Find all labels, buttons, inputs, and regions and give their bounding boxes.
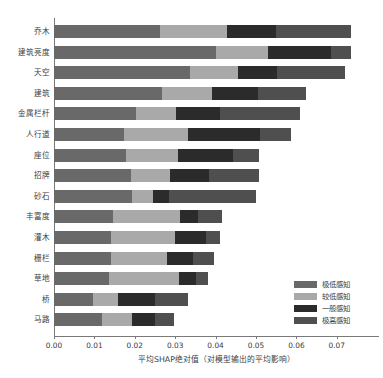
bar-segment xyxy=(196,272,208,285)
bar-segment xyxy=(209,169,260,182)
y-tick-label: 金属栏杆 xyxy=(0,107,50,120)
bar-segment xyxy=(54,107,136,120)
bar-segment xyxy=(54,190,132,203)
bar-segment xyxy=(54,252,111,265)
x-tick-mark xyxy=(296,336,297,339)
bar-segment xyxy=(54,149,126,162)
y-tick-label: 砂石 xyxy=(0,190,50,203)
bar-segment xyxy=(277,66,344,79)
y-tick-label: 桥 xyxy=(0,293,50,306)
x-tick-mark xyxy=(94,336,95,339)
bar-segment xyxy=(188,128,260,141)
bar-segment xyxy=(54,66,190,79)
bar-segment xyxy=(176,107,220,120)
legend-item: 极低感知 xyxy=(294,279,380,291)
bar-segment xyxy=(198,210,223,223)
legend-label: 极低感知 xyxy=(322,279,350,290)
bar-segment xyxy=(178,149,233,162)
bar-segment xyxy=(131,169,170,182)
bar-segment xyxy=(160,25,227,38)
bar-segment xyxy=(220,107,300,120)
x-tick-label: 0.05 xyxy=(248,341,264,350)
bar-segment xyxy=(118,293,155,306)
x-tick-label: 0.02 xyxy=(127,341,143,350)
x-axis-title: 平均SHAP绝对值（对模型输出的平均影响） xyxy=(54,353,379,364)
bar-segment xyxy=(258,87,307,100)
bar-segment xyxy=(102,313,131,326)
bar-segment xyxy=(54,25,160,38)
bar-segment xyxy=(216,46,269,59)
x-tick-label: 0.00 xyxy=(46,341,62,350)
legend: 极低感知较低感知一般感知极高感知 xyxy=(294,279,380,327)
x-tick-label: 0.07 xyxy=(329,341,345,350)
y-tick-label: 草地 xyxy=(0,272,50,285)
bar-segment xyxy=(109,272,178,285)
legend-item: 较低感知 xyxy=(294,291,380,303)
bar-segment xyxy=(132,313,155,326)
x-tick-label: 0.01 xyxy=(86,341,102,350)
legend-swatch xyxy=(294,281,317,288)
bar-segment xyxy=(54,46,216,59)
bar-segment xyxy=(268,46,331,59)
x-tick-mark xyxy=(256,336,257,339)
y-tick-label: 丰富度 xyxy=(0,210,50,223)
shap-bar-chart-figure: 乔木建筑亮度天空建筑金属栏杆人行道座位招牌砂石丰富度灌木栅栏草地桥马路 0.00… xyxy=(0,0,383,378)
bar-segment xyxy=(54,169,131,182)
y-tick-label: 灌木 xyxy=(0,231,50,244)
bar-segment xyxy=(111,252,167,265)
y-tick-label: 建筑亮度 xyxy=(0,46,50,59)
x-tick-mark xyxy=(216,336,217,339)
bar-segment xyxy=(170,169,209,182)
bar-segment xyxy=(155,293,188,306)
legend-swatch xyxy=(294,293,317,300)
legend-swatch xyxy=(294,305,317,312)
bar-segment xyxy=(153,190,170,203)
y-tick-label: 建筑 xyxy=(0,87,50,100)
bar-segment xyxy=(54,272,109,285)
y-tick-label: 天空 xyxy=(0,66,50,79)
bar-segment xyxy=(93,293,118,306)
bar-segment xyxy=(190,66,238,79)
bar-segment xyxy=(167,252,193,265)
bar-segment xyxy=(260,128,291,141)
bar-segment xyxy=(331,46,350,59)
bar-segment xyxy=(126,149,178,162)
legend-label: 极高感知 xyxy=(322,315,350,326)
bar-segment xyxy=(227,25,276,38)
legend-label: 较低感知 xyxy=(322,291,350,302)
y-tick-label: 乔木 xyxy=(0,25,50,38)
bar-segment xyxy=(54,87,162,100)
bar-segment xyxy=(111,231,175,244)
x-tick-mark xyxy=(135,336,136,339)
bar-segment xyxy=(193,252,214,265)
bar-segment xyxy=(175,231,206,244)
x-tick-mark xyxy=(337,336,338,339)
legend-item: 一般感知 xyxy=(294,303,380,315)
bar-segment xyxy=(206,231,219,244)
bar-segment xyxy=(212,87,258,100)
bar-segment xyxy=(179,272,196,285)
bar-segment xyxy=(54,128,124,141)
x-tick-label: 0.04 xyxy=(207,341,223,350)
bar-segment xyxy=(276,25,350,38)
y-tick-label: 座位 xyxy=(0,149,50,162)
x-tick-label: 0.03 xyxy=(167,341,183,350)
bar-segment xyxy=(124,128,188,141)
x-tick-mark xyxy=(54,336,55,339)
bar-segment xyxy=(136,107,176,120)
bar-segment xyxy=(238,66,277,79)
bar-segment xyxy=(54,293,93,306)
y-tick-label: 招牌 xyxy=(0,169,50,182)
bar-segment xyxy=(54,231,111,244)
bar-segment xyxy=(132,190,153,203)
bar-segment xyxy=(155,313,173,326)
x-tick-label: 0.06 xyxy=(288,341,304,350)
x-tick-mark xyxy=(175,336,176,339)
y-tick-label: 马路 xyxy=(0,313,50,326)
legend-swatch xyxy=(294,317,317,324)
bar-segment xyxy=(54,210,113,223)
legend-label: 一般感知 xyxy=(322,303,350,314)
bar-segment xyxy=(162,87,212,100)
legend-item: 极高感知 xyxy=(294,315,380,327)
bar-segment xyxy=(180,210,198,223)
